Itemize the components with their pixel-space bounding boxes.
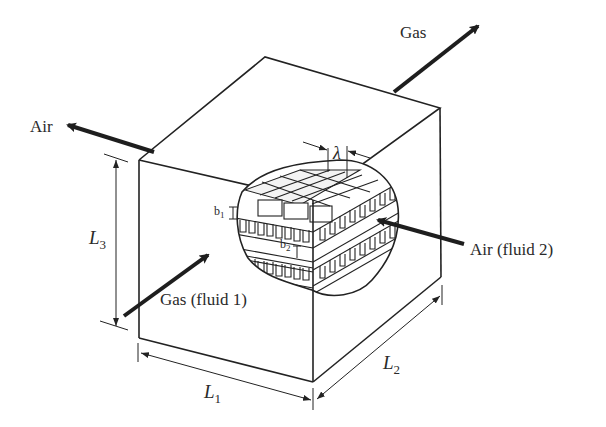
plate-spacing-b2-label: b2 (280, 238, 291, 253)
heat-exchanger-diagram (0, 0, 606, 427)
air-outlet-label: Air (30, 118, 53, 135)
cutaway-fin-core (229, 142, 400, 295)
fin-pitch-lambda-label: λ (333, 144, 341, 162)
gas-inlet-label: Gas (fluid 1) (160, 291, 247, 308)
air-out-arrow (68, 125, 154, 152)
dimension-L3-label: L3 (89, 228, 106, 251)
plate-spacing-b1-label: b1 (214, 205, 225, 220)
gas-outlet-label: Gas (400, 24, 426, 41)
dimension-L2-label: L2 (383, 353, 400, 376)
air-inlet-label: Air (fluid 2) (470, 241, 553, 258)
dimension-L1-label: L1 (204, 382, 221, 405)
